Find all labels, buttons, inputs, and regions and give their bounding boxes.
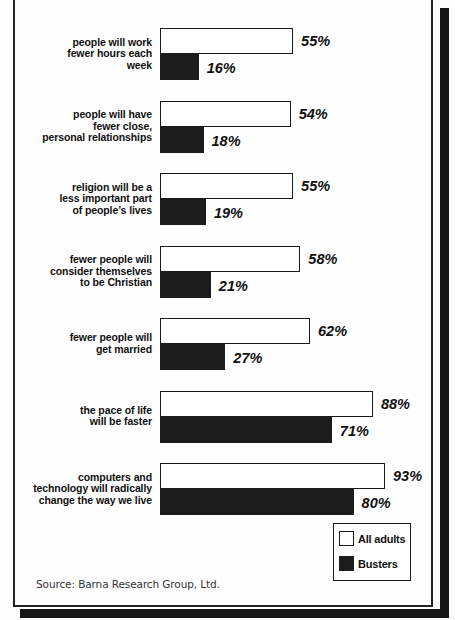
bar-group: religion will be aless important partof … — [0, 173, 455, 225]
bar-all-adults — [160, 391, 373, 417]
bar-all-adults — [160, 318, 310, 344]
bar-busters — [160, 54, 199, 80]
legend-swatch-busters-icon — [339, 556, 354, 571]
chart-figure: people will workfewer hours eachweek55%1… — [0, 0, 455, 620]
bar-busters — [160, 417, 332, 443]
bar-busters — [160, 344, 225, 370]
category-label-line: of people’s lives — [24, 205, 152, 217]
bar-value-busters: 19% — [214, 205, 243, 221]
bar-all-adults — [160, 28, 293, 54]
chart-legend: All adults Busters — [333, 523, 411, 581]
bar-value-busters: 80% — [362, 495, 391, 511]
category-label-line: change the way we live — [24, 495, 152, 507]
category-label-line: fewer people will — [24, 254, 152, 266]
legend-item-busters: Busters — [339, 556, 398, 571]
bar-all-adults — [160, 173, 293, 199]
bar-group: people will havefewer close,personal rel… — [0, 101, 455, 153]
bar-value-busters: 18% — [212, 133, 241, 149]
category-label: fewer people willconsider themselvesto b… — [24, 254, 152, 289]
source-note: Source: Barna Research Group, Ltd. — [36, 578, 220, 590]
bar-value-all-adults: 62% — [318, 323, 347, 339]
bar-group: computers andtechnology will radicallych… — [0, 463, 455, 515]
bar-value-all-adults: 58% — [308, 251, 337, 267]
category-label-line: get married — [24, 344, 152, 356]
bar-value-all-adults: 55% — [301, 178, 330, 194]
category-label: people will havefewer close,personal rel… — [24, 109, 152, 144]
bar-all-adults — [160, 101, 291, 127]
category-label-line: will be faster — [24, 416, 152, 428]
legend-label-busters: Busters — [358, 558, 398, 570]
bar-busters — [160, 199, 206, 225]
category-label-line: personal relationships — [24, 132, 152, 144]
bar-value-all-adults: 55% — [301, 33, 330, 49]
bar-all-adults — [160, 246, 300, 272]
bar-value-all-adults: 88% — [381, 396, 410, 412]
category-label: fewer people willget married — [24, 332, 152, 355]
bar-value-busters: 16% — [207, 60, 236, 76]
bar-group: fewer people willconsider themselvesto b… — [0, 246, 455, 298]
category-label: computers andtechnology will radicallych… — [24, 472, 152, 507]
bar-value-busters: 27% — [233, 350, 262, 366]
bar-busters — [160, 489, 354, 515]
legend-swatch-all-adults-icon — [339, 531, 354, 546]
legend-label-all-adults: All adults — [358, 533, 406, 545]
bar-busters — [160, 272, 211, 298]
legend-item-all-adults: All adults — [339, 531, 406, 546]
bar-all-adults — [160, 463, 385, 489]
bar-value-busters: 21% — [219, 278, 248, 294]
category-label: the pace of lifewill be faster — [24, 405, 152, 428]
bar-value-busters: 71% — [340, 423, 369, 439]
category-label-line: week — [24, 60, 152, 72]
bar-busters — [160, 127, 204, 153]
category-label-line: to be Christian — [24, 277, 152, 289]
category-label: religion will be aless important partof … — [24, 182, 152, 217]
bar-group: fewer people willget married62%27% — [0, 318, 455, 370]
bar-value-all-adults: 54% — [299, 106, 328, 122]
category-label-line: people will have — [24, 109, 152, 121]
bar-group: people will workfewer hours eachweek55%1… — [0, 28, 455, 80]
bar-group: the pace of lifewill be faster88%71% — [0, 391, 455, 443]
category-label: people will workfewer hours eachweek — [24, 37, 152, 72]
bar-value-all-adults: 93% — [393, 468, 422, 484]
